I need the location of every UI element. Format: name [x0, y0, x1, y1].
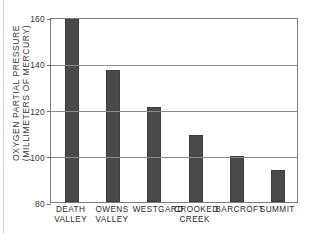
y-axis-tick — [47, 19, 51, 20]
y-axis-tick — [47, 111, 51, 112]
y-axis-tick — [47, 157, 51, 158]
y-axis-title-line-1: OXYGEN PARTIAL PRESSURE — [11, 25, 21, 161]
bar — [230, 156, 244, 202]
x-axis-label-line: DEATH — [50, 205, 91, 215]
gridline — [51, 65, 297, 66]
bar — [271, 170, 285, 202]
y-axis-tick-label: 100 — [30, 153, 45, 163]
x-axis-label: CROOKEDCREEK — [174, 205, 215, 226]
y-axis-title-line-2: (MILLIMETERS OF MERCURY) — [21, 25, 31, 161]
x-axis-label-line: OWENS — [91, 205, 132, 215]
gridline — [51, 157, 297, 158]
bar — [106, 70, 120, 202]
x-axis-label-line: VALLEY — [50, 215, 91, 225]
plot-area: 80100120140160 — [50, 18, 298, 203]
y-axis-tick-label: 80 — [35, 199, 45, 209]
bar — [189, 135, 203, 202]
x-axis-label-line: SUMMIT — [257, 205, 298, 215]
x-axis-label: SUMMIT — [257, 205, 298, 215]
x-axis-label: OWENSVALLEY — [91, 205, 132, 226]
x-axis-label-line: CREEK — [174, 215, 215, 225]
bar-chart-figure: OXYGEN PARTIAL PRESSURE (MILLIMETERS OF … — [0, 0, 311, 234]
y-axis-tick-label: 140 — [30, 60, 45, 70]
x-axis-label-line: CROOKED — [174, 205, 215, 215]
x-axis-labels: DEATHVALLEYOWENSVALLEYWESTGARDCROOKEDCRE… — [50, 205, 298, 233]
y-axis-tick-label: 160 — [30, 14, 45, 24]
gridline — [51, 111, 297, 112]
y-axis-tick-label: 120 — [30, 107, 45, 117]
bar — [147, 107, 161, 202]
x-axis-label-line: WESTGARD — [133, 205, 174, 215]
x-axis-label: DEATHVALLEY — [50, 205, 91, 226]
x-axis-label-line: BARCROFT — [215, 205, 256, 215]
x-axis-label-line: VALLEY — [91, 215, 132, 225]
y-axis-tick — [47, 65, 51, 66]
x-axis-label: WESTGARD — [133, 205, 174, 215]
x-axis-label: BARCROFT — [215, 205, 256, 215]
